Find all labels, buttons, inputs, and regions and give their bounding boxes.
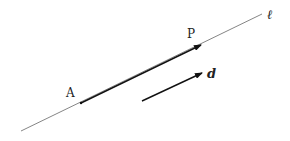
label-d: d <box>207 66 216 81</box>
label-A: A <box>65 86 75 100</box>
diagram-canvas: ℓ P A d <box>0 0 290 141</box>
label-l: ℓ <box>267 7 273 22</box>
label-P: P <box>187 27 195 41</box>
line-l <box>21 14 262 131</box>
vector-d <box>142 73 202 101</box>
vector-AP <box>81 45 201 103</box>
point-A-marker <box>80 102 82 104</box>
diagram-svg: ℓ P A d <box>0 0 290 141</box>
